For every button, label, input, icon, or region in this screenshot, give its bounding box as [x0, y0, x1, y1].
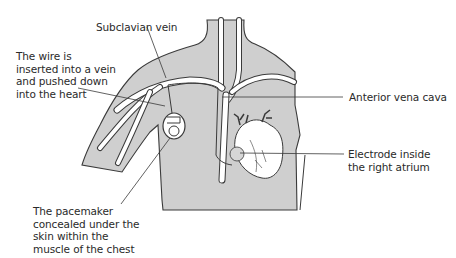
- label-pacemaker: The pacemaker concealed under the skin w…: [33, 205, 139, 255]
- label-electrode: Electrode inside the right atrium: [348, 148, 430, 173]
- label-anterior-vena-cava: Anterior vena cava: [349, 91, 447, 104]
- label-wire-inserted: The wire is inserted into a vein and pus…: [16, 50, 116, 100]
- body-silhouette: [82, 20, 305, 210]
- label-subclavian-vein: Subclavian vein: [96, 21, 177, 34]
- pacemaker-device-icon: [163, 113, 185, 139]
